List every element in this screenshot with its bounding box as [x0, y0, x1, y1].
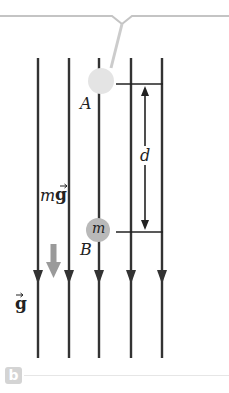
arrowhead-icon	[94, 270, 104, 284]
arrow-up-icon	[141, 86, 149, 96]
string	[111, 24, 122, 68]
label-distance: d	[140, 146, 150, 165]
arrowhead-icon	[33, 270, 43, 284]
label-force-g: g	[55, 184, 67, 204]
caption-divider	[24, 375, 229, 376]
top-bracket	[0, 16, 229, 68]
field-lines	[38, 58, 162, 358]
label-field-g: g	[15, 293, 27, 313]
panel-label-badge: b	[5, 367, 22, 384]
arrowhead-icon	[126, 270, 136, 284]
arrowhead-icon	[157, 270, 167, 284]
gravitational-field-diagram: A B d m m g g b	[0, 0, 229, 393]
ball-a	[88, 68, 114, 94]
label-force-m: m	[40, 186, 55, 205]
label-point-b: B	[80, 240, 92, 259]
label-point-a: A	[80, 94, 92, 113]
label-mass: m	[92, 220, 105, 236]
force-arrow-mg	[46, 244, 61, 278]
arrowhead-icon	[64, 270, 74, 284]
arrow-down-icon	[141, 220, 149, 230]
diagram-canvas	[0, 0, 229, 393]
